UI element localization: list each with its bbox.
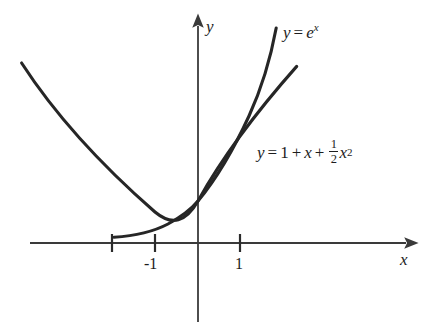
fraction-denominator: 2 <box>330 153 338 166</box>
poly-label-constant-term: 1 <box>280 144 289 161</box>
exp-label-equals: = <box>291 23 307 42</box>
curve-label-polynomial: y = 1 + x + 1 2 x2 <box>257 139 352 167</box>
poly-label-plus-first: + <box>289 144 305 161</box>
poly-label-linear-term: x <box>304 144 312 161</box>
x-tick-label-negative-one: -1 <box>144 256 157 272</box>
exp-label-lhs: y <box>283 23 291 42</box>
curve-label-exponential: y=ex <box>283 22 319 41</box>
poly-label-one-half-fraction: 1 2 <box>329 138 338 166</box>
x-axis-label: x <box>400 251 408 268</box>
poly-label-quadratic-base: x <box>339 144 347 161</box>
fraction-numerator: 1 <box>330 138 338 151</box>
poly-label-equals: = <box>265 144 281 161</box>
exp-label-base: e <box>306 23 314 42</box>
exp-label-exponent: x <box>314 21 319 33</box>
poly-label-plus-second: + <box>312 144 328 161</box>
x-tick-label-positive-one: 1 <box>235 256 243 272</box>
figure-container: y=ex y = 1 + x + 1 2 x2 y x -1 1 <box>0 0 441 335</box>
y-axis-label: y <box>206 18 214 35</box>
graph-canvas <box>0 0 441 335</box>
curve-quadratic-taylor-polynomial <box>22 63 297 220</box>
poly-label-lhs: y <box>257 144 265 161</box>
curve-exponential-function <box>114 28 276 237</box>
poly-label-quadratic-exponent: 2 <box>347 147 353 158</box>
